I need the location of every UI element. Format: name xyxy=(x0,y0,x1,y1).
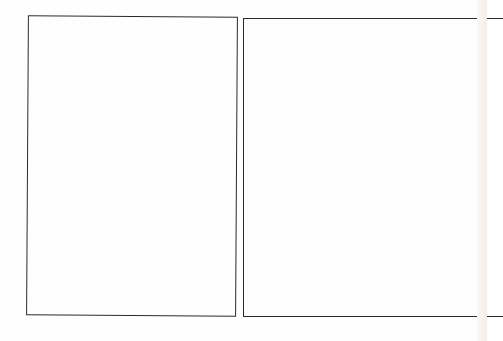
panel-right xyxy=(243,18,503,317)
panel-left xyxy=(26,15,238,316)
page-edge-shadow xyxy=(477,0,487,341)
